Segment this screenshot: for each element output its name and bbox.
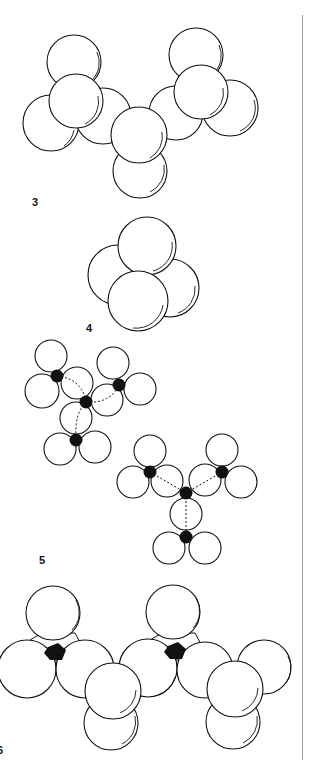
figure-4-label: 4 [86,322,92,334]
figure-6-space-filling-chain [0,585,291,750]
molecular-models-diagram [0,0,311,760]
figure-6-label: 6 [0,744,3,756]
figure-4-tetrahedral-model [88,217,199,331]
figure-5-label: 5 [39,554,45,566]
figure-3-label: 3 [32,196,38,208]
figure-5-orbital-model [25,340,257,564]
figure-3-space-filling-model [23,28,258,198]
